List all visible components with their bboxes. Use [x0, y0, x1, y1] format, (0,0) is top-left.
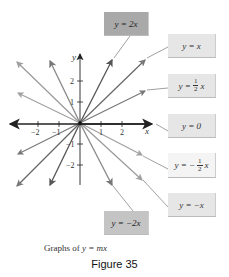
line-y-neg-2x-neg	[50, 61, 80, 123]
x-axis-label: x	[144, 126, 149, 136]
label-y-neg-half-x: y = − 1 2 x	[168, 153, 216, 178]
fraction-half: 1 2	[193, 78, 199, 93]
fraction-denominator: 2	[194, 86, 198, 93]
line-y-neg-2x	[80, 123, 112, 185]
label-y-2x: y = 2x	[104, 12, 149, 36]
line-y-2x	[80, 60, 112, 123]
figure-caption: Graphs of y = mx	[44, 243, 107, 253]
label-prefix: y = −	[174, 160, 195, 170]
label-text: y = x	[182, 41, 201, 51]
x-tick-label: −1	[52, 128, 61, 137]
line-y-neg-half-x	[80, 123, 142, 155]
leader-zero	[156, 124, 168, 131]
figure-title: Figure 35	[0, 258, 229, 270]
leader-2x	[114, 36, 130, 58]
label-suffix: x	[200, 81, 204, 91]
caption-prefix: Graphs of	[44, 243, 82, 253]
label-text: y = 0	[182, 121, 201, 131]
leader-neg2x	[113, 186, 133, 211]
y-tick-label: −1	[66, 140, 75, 149]
line-y-half-x-neg	[18, 123, 80, 154]
line-y-neg-x	[80, 123, 142, 180]
caption-math: y = mx	[82, 243, 107, 253]
label-text: y = −x	[179, 200, 204, 210]
origin-point	[78, 121, 82, 125]
label-y-zero: y = 0	[168, 114, 216, 138]
label-suffix: x	[205, 160, 209, 170]
label-text: y = 2x	[114, 19, 137, 29]
label-y-neg-x: y = −x	[168, 193, 216, 217]
y-tick-label: −2	[66, 161, 75, 170]
fraction-denominator: 2	[198, 166, 202, 173]
x-tick-label: 1	[99, 128, 103, 137]
label-prefix: y =	[179, 81, 191, 91]
label-text: y = −2x	[111, 218, 140, 228]
leader-x	[147, 47, 168, 58]
leader-negx	[143, 180, 168, 207]
label-y-neg-2x: y = −2x	[104, 211, 149, 235]
fraction-half: 1 2	[197, 158, 203, 173]
line-y-neg-x-neg	[17, 62, 80, 123]
leader-half	[147, 88, 168, 90]
y-axis-label: y	[71, 52, 76, 62]
y-tick-label: 1	[70, 98, 74, 107]
label-y-x: y = x	[168, 34, 216, 58]
label-y-half-x: y = 1 2 x	[168, 74, 216, 98]
x-tick-label: 2	[120, 128, 124, 137]
leader-neghalf	[143, 156, 168, 169]
y-tick-label: 2	[70, 77, 74, 86]
line-y-x-neg	[17, 123, 80, 186]
line-y-half-x	[80, 91, 145, 123]
x-tick-label: −2	[31, 128, 40, 137]
line-y-x	[80, 60, 145, 123]
